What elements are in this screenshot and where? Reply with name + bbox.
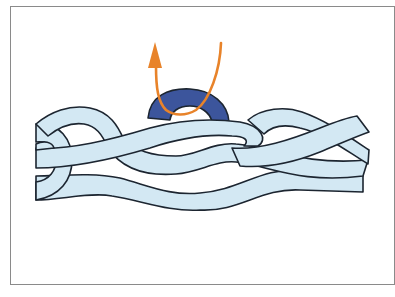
caption-remnant bbox=[0, 288, 389, 297]
arrow-up-icon bbox=[148, 42, 162, 68]
ring bbox=[148, 89, 229, 122]
braid-strand-end bbox=[36, 142, 54, 150]
